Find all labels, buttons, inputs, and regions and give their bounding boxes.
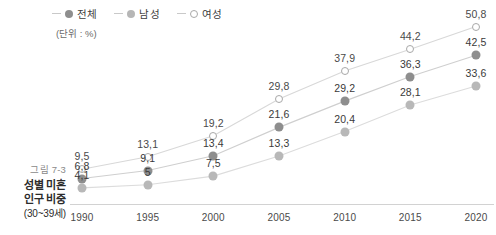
x-axis-labels: 1990199520002005201020152020	[70, 208, 494, 228]
x-axis-line	[70, 204, 494, 205]
data-label-male-2020: 33,6	[466, 67, 487, 79]
data-point-female-2015	[406, 45, 414, 53]
data-label-male-1995: 5	[145, 166, 151, 178]
data-label-male-1990: 4,1	[75, 169, 90, 181]
data-label-total-2000: 13,4	[203, 137, 224, 149]
data-point-total-2010	[340, 97, 349, 106]
data-label-male-2005: 13,3	[269, 137, 290, 149]
data-point-total-2015	[406, 72, 415, 81]
figure-title-line1: 성별 미혼	[0, 178, 66, 193]
data-label-total-2020: 42,5	[466, 36, 487, 48]
data-point-male-2010	[340, 127, 349, 136]
x-tick-2020: 2020	[464, 212, 487, 223]
data-label-total-2005: 21,6	[269, 108, 290, 120]
x-tick-2000: 2000	[202, 212, 225, 223]
data-label-male-2010: 20,4	[334, 113, 355, 125]
data-point-male-2005	[275, 152, 284, 161]
data-point-male-2015	[406, 100, 415, 109]
series-lines	[70, 8, 490, 204]
data-point-male-1990	[78, 183, 87, 192]
data-point-male-2000	[209, 172, 218, 181]
x-tick-1990: 1990	[70, 212, 93, 223]
data-point-female-2005	[275, 95, 283, 103]
data-label-male-2000: 7,5	[206, 157, 221, 169]
data-label-total-1995: 9,1	[140, 152, 155, 164]
figure-title-line2: 인구 비중	[0, 192, 66, 207]
data-point-male-2020	[472, 81, 481, 90]
data-label-total-2015: 36,3	[400, 58, 421, 70]
data-point-male-1995	[143, 180, 152, 189]
x-tick-2015: 2015	[399, 212, 422, 223]
data-label-female-2005: 29,8	[269, 80, 290, 92]
data-point-female-2010	[341, 67, 349, 75]
data-label-female-1995: 13,1	[137, 138, 158, 150]
data-label-total-2010: 29,2	[334, 82, 355, 94]
data-label-female-2020: 50,8	[466, 8, 487, 20]
legend-dash-icon	[52, 13, 61, 14]
figure-caption: 그림 7-3 성별 미혼 인구 비중 (30~39세)	[0, 163, 66, 221]
x-tick-2005: 2005	[267, 212, 290, 223]
data-point-female-2020	[472, 23, 480, 31]
figure-title-line3: (30~39세)	[0, 207, 66, 222]
chart-figure: 전체 남성 여성 (단위 : %) 그림 7-3 성별 미혼 인구 비중 (30…	[0, 0, 496, 235]
data-label-female-2015: 44,2	[400, 30, 421, 42]
data-point-total-2005	[275, 123, 284, 132]
x-tick-1995: 1995	[136, 212, 159, 223]
data-point-total-2020	[472, 51, 481, 60]
data-label-male-2015: 28,1	[400, 86, 421, 98]
x-tick-2010: 2010	[333, 212, 356, 223]
plot-area: 9,513,119,229,837,944,250,86,89,113,421,…	[70, 8, 490, 204]
data-label-female-2000: 19,2	[203, 117, 224, 129]
data-label-female-2010: 37,9	[334, 52, 355, 64]
figure-number: 그림 7-3	[0, 163, 66, 178]
